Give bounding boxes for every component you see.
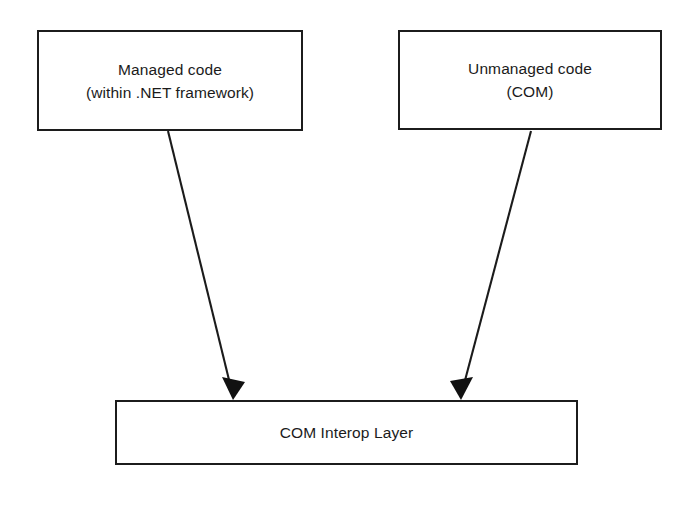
arrowhead-icon [222, 377, 245, 400]
node-managed-code-line1: Managed code [118, 58, 222, 81]
node-com-interop-layer-line1: COM Interop Layer [280, 421, 414, 444]
arrowhead-icon [450, 377, 473, 400]
node-managed-code-line2: (within .NET framework) [86, 81, 254, 104]
node-com-interop-layer: COM Interop Layer [115, 400, 578, 465]
node-unmanaged-code-line1: Unmanaged code [468, 57, 592, 80]
edge-managed-to-interop-line [168, 131, 231, 388]
node-managed-code: Managed code (within .NET framework) [37, 30, 303, 131]
edge-unmanaged-to-interop [450, 131, 531, 400]
node-unmanaged-code-line2: (COM) [507, 80, 554, 103]
edge-managed-to-interop [168, 131, 245, 400]
edge-unmanaged-to-interop-line [463, 131, 531, 388]
diagram-canvas: Managed code (within .NET framework) Unm… [0, 0, 694, 505]
node-unmanaged-code: Unmanaged code (COM) [398, 30, 662, 130]
